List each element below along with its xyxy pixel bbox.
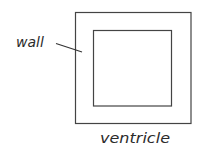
ventricle-diagram: wall ventricle: [0, 0, 201, 148]
outer-square-wall: [76, 13, 192, 124]
wall-leader-line: [56, 44, 82, 53]
inner-square-ventricle: [94, 31, 172, 107]
wall-label: wall: [16, 34, 44, 50]
ventricle-label: ventricle: [100, 130, 170, 146]
